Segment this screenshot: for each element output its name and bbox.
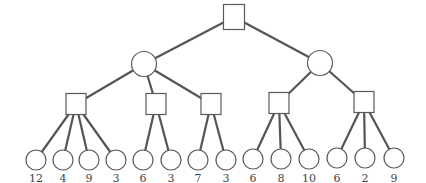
leaf-value: 6 [140, 172, 147, 183]
square-node [146, 94, 166, 115]
square-node [354, 92, 374, 113]
leaf-value: 3 [223, 172, 230, 183]
leaf-circle-node [216, 150, 236, 170]
leaf-value: 9 [391, 172, 398, 183]
game-tree-diagram: 1249363736810629 [0, 0, 426, 183]
leaf-value: 4 [60, 172, 67, 183]
leaf-value: 12 [29, 172, 43, 183]
leaf-value-labels: 1249363736810629 [29, 172, 398, 183]
leaf-value: 8 [278, 172, 285, 183]
square-node [269, 93, 289, 114]
square-node [66, 94, 86, 115]
leaf-circle-node [79, 150, 99, 170]
leaf-circle-node [271, 149, 291, 169]
leaf-value: 2 [362, 172, 369, 183]
leaf-circle-node [26, 150, 46, 170]
root-square-node [224, 5, 245, 30]
tree-edge [144, 17, 234, 64]
leaf-circle-node [355, 148, 375, 168]
leaf-circle-node [384, 148, 404, 168]
leaf-circle-node [133, 150, 153, 170]
square-node [201, 94, 221, 115]
circle-node [308, 51, 333, 76]
leaf-value: 10 [302, 172, 316, 183]
leaf-circle-node [106, 150, 126, 170]
leaf-value: 3 [168, 172, 175, 183]
leaf-circle-node [299, 149, 319, 169]
leaf-value: 7 [195, 172, 202, 183]
tree-edge [234, 17, 320, 63]
tree-edges [36, 17, 394, 160]
leaf-circle-node [53, 150, 73, 170]
circle-node [132, 52, 157, 77]
leaf-circle-node [161, 150, 181, 170]
leaf-circle-node [243, 149, 263, 169]
leaf-circle-node [188, 150, 208, 170]
leaf-value: 9 [86, 172, 93, 183]
leaf-value: 3 [113, 172, 120, 183]
leaf-value: 6 [334, 172, 341, 183]
leaf-circle-node [327, 148, 347, 168]
leaf-value: 6 [250, 172, 257, 183]
